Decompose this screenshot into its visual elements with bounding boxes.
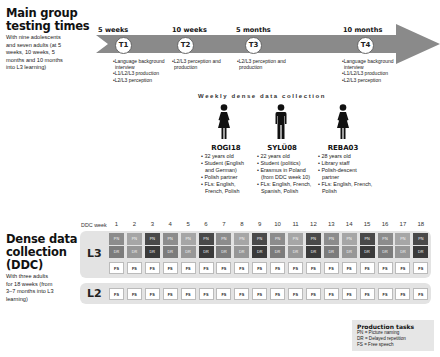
week-number: 14 [341,221,357,227]
l3-cell-fs: FS [216,262,231,274]
timepoint-t3-badge: T3 [245,37,262,54]
l3-cell-fs: FS [395,262,410,274]
l3-cell-dr: DR [378,246,393,258]
l3-cell-dr: DR [270,246,285,258]
l3-cell-pn: PN [181,233,196,245]
l2-cell-fs: FS [127,288,142,300]
l2-cell-fs: FS [288,288,303,300]
l3-cell-pn: PN [395,233,410,245]
l3-cell-fs: FS [199,262,214,274]
l3-cell-fs: FS [360,262,375,274]
l3-cell-dr: DR [145,246,160,258]
ddc-description: With three adults for 18 weeks (from 3–7… [6,273,77,303]
l3-cell-fs: FS [413,262,428,274]
l3-cell-fs: FS [324,262,339,274]
l2-cell-fs: FS [234,288,249,300]
l3-cell-pn: PN [163,233,178,245]
l3-cell-pn: PN [145,233,160,245]
participant-info-sylu08: • 22 years old • Student (politics) • Er… [257,153,311,195]
production-tasks-legend: Production tasks PN = Picture naming DR … [352,320,434,351]
l2-label: L2 [87,287,102,300]
l3-cell-dr: DR [324,246,339,258]
l3-cell-dr: DR [252,246,267,258]
ddc-heading: Dense data collection (DDC) With three a… [6,233,77,303]
l2-cell-fs: FS [199,288,214,300]
l3-cell-fs: FS [234,262,249,274]
l2-cell-fs: FS [360,288,375,300]
l3-cell-dr: DR [306,246,321,258]
l3-cell-dr: DR [216,246,231,258]
timepoint-t1-notes: •Language background interview •L1/L2/L3… [113,58,165,83]
weekly-collection-title: Weekly dense data collection [198,93,326,99]
l3-cell-pn: PN [306,233,321,245]
l3-cell-pn: PN [270,233,285,245]
l3-cell-dr: DR [163,246,178,258]
timepoint-t4-notes: •Language background interview •L1/L2/L3… [342,58,394,83]
timepoint-label-t4: 10 months [343,26,382,34]
l3-cell-dr: DR [288,246,303,258]
l3-cell-fs: FS [181,262,196,274]
l3-cell-fs: FS [306,262,321,274]
l2-cell-fs: FS [145,288,160,300]
l3-cell-fs: FS [378,262,393,274]
l2-cell-fs: FS [181,288,196,300]
week-number: 7 [216,221,232,227]
l3-cell-pn: PN [342,233,357,245]
l2-cell-fs: FS [378,288,393,300]
week-number: 1 [109,221,125,227]
l3-cell-dr: DR [395,246,410,258]
l3-cell-pn: PN [234,233,249,245]
timepoint-t2-notes: •L2/L3 perception and production [172,58,221,70]
main-group-heading: Main group testing times With nine adole… [6,7,89,72]
l3-cell-pn: PN [378,233,393,245]
ddc-title-3: (DDC) [6,259,77,272]
l3-cell-pn: PN [216,233,231,245]
timepoint-t2-badge: T2 [177,37,194,54]
l2-cell-fs: FS [216,288,231,300]
week-number: 9 [252,221,268,227]
ddc-week-label: DDC week [81,222,107,228]
l3-cell-pn: PN [127,233,142,245]
week-number: 2 [126,221,142,227]
l3-label: L3 [87,247,102,260]
participant-name-rogi18: ROGI18 [206,144,246,152]
week-number: 8 [234,221,250,227]
l3-cell-pn: PN [252,233,267,245]
l3-cell-dr: DR [234,246,249,258]
timepoint-t4-badge: T4 [357,37,374,54]
participant-name-sylu08: SYLÜ08 [262,144,302,152]
week-number: 17 [395,221,411,227]
l2-cell-fs: FS [306,288,321,300]
l3-cell-fs: FS [145,262,160,274]
timepoint-label-t3: 5 months [236,26,271,34]
timepoint-label-t1: 5 weeks [98,26,128,34]
main-group-description: With nine adolescents and seven adults (… [6,34,89,72]
l2-cell-fs: FS [270,288,285,300]
l3-cell-dr: DR [342,246,357,258]
l3-cell-fs: FS [342,262,357,274]
l3-cell-pn: PN [288,233,303,245]
main-group-title-2: testing times [6,20,89,33]
l2-cell-fs: FS [395,288,410,300]
l2-cell-fs: FS [413,288,428,300]
week-number: 10 [270,221,286,227]
l3-cell-dr: DR [360,246,375,258]
timepoint-label-t2: 10 weeks [172,26,207,34]
week-number: 11 [288,221,304,227]
timepoint-t3-notes: •L2/L3 perception and production [237,58,286,70]
participant-name-reba03: REBA03 [323,144,363,152]
week-number: 15 [359,221,375,227]
l2-cell-fs: FS [252,288,267,300]
l3-cell-fs: FS [109,262,124,274]
female-figure-icon [335,104,351,140]
legend-title: Production tasks [357,323,429,330]
l3-cell-pn: PN [324,233,339,245]
l3-cell-pn: PN [199,233,214,245]
male-figure-icon [273,104,289,140]
l3-cell-fs: FS [252,262,267,274]
l3-cell-dr: DR [127,246,142,258]
female-figure-icon [216,104,232,140]
l3-cell-dr: DR [181,246,196,258]
l3-cell-fs: FS [288,262,303,274]
legend-item-fs: FS = Free speech [357,342,429,348]
